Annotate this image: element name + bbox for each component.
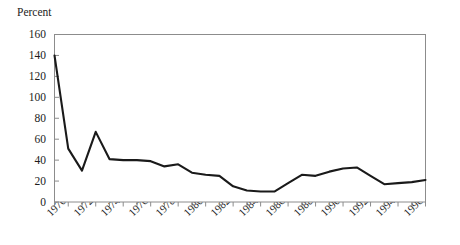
plot-frame xyxy=(55,35,426,203)
x-axis-ticks xyxy=(55,202,426,207)
chart-page: Percent 020406080100120140160 1970197219… xyxy=(0,0,460,245)
line-chart-plot xyxy=(0,0,460,245)
